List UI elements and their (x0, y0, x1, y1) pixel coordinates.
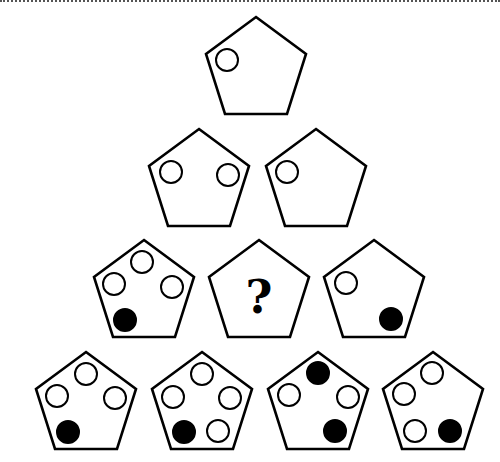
pentagon (268, 352, 368, 449)
black-circle-icon (57, 421, 79, 443)
white-circle-icon (276, 161, 298, 183)
pentagon (206, 17, 306, 114)
pentagon-question[interactable]: ? (209, 240, 309, 337)
white-circle-icon (335, 272, 357, 294)
question-mark: ? (246, 270, 273, 324)
white-circle-icon (216, 49, 238, 71)
white-circle-icon (404, 420, 426, 442)
pentagon (383, 352, 483, 449)
white-circle-icon (421, 362, 443, 384)
white-circle-icon (191, 363, 213, 385)
white-circle-icon (278, 384, 300, 406)
white-circle-icon (161, 276, 183, 298)
black-circle-icon (307, 362, 329, 384)
pentagon (36, 352, 136, 449)
white-circle-icon (160, 161, 182, 183)
white-circle-icon (75, 363, 97, 385)
pentagon (94, 240, 194, 337)
white-circle-icon (337, 386, 359, 408)
black-circle-icon (380, 308, 402, 330)
pentagon (324, 240, 424, 337)
pentagon (152, 352, 252, 449)
white-circle-icon (207, 420, 229, 442)
black-circle-icon (439, 420, 461, 442)
black-circle-icon (114, 309, 136, 331)
white-circle-icon (104, 387, 126, 409)
white-circle-icon (131, 251, 153, 273)
white-circle-icon (219, 387, 241, 409)
white-circle-icon (393, 383, 415, 405)
black-circle-icon (324, 420, 346, 442)
white-circle-icon (103, 273, 125, 295)
white-circle-icon (46, 385, 68, 407)
pentagon (149, 129, 249, 226)
pentagon-pyramid-puzzle: ? (0, 0, 500, 462)
white-circle-icon (217, 164, 239, 186)
pentagon (266, 129, 366, 226)
black-circle-icon (173, 421, 195, 443)
white-circle-icon (162, 386, 184, 408)
